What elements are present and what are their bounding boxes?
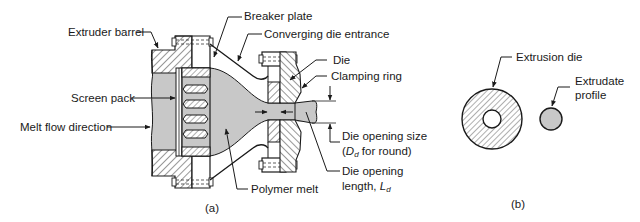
label-extruder-barrel: Extruder barrel [68, 26, 144, 38]
label-die-opening-length-2: length, Ld [342, 180, 391, 194]
label-extrudate-profile: profile [575, 89, 606, 101]
label-clamping-ring: Clamping ring [331, 70, 402, 82]
leader-converging [238, 34, 262, 61]
leader-extrusion-die [493, 57, 512, 87]
label-die-opening-size-note: (Dd for round) [342, 145, 412, 159]
die-top [268, 82, 280, 103]
label-converging-die-entrance: Converging die entrance [264, 28, 389, 40]
label-polymer-melt: Polymer melt [251, 183, 319, 195]
label-die: Die [333, 54, 350, 66]
breaker-plate [182, 68, 210, 156]
leader-clamping-ring [302, 76, 327, 88]
label-die-opening-size: Die opening size [342, 130, 427, 142]
bolt-head-icon [172, 38, 176, 46]
figure-b: Extrusion die Extrudate profile (b) [462, 51, 624, 210]
flange-bottom [192, 156, 210, 188]
clamping-ring-bottom [280, 120, 301, 172]
label-melt-flow-direction: Melt flow direction [20, 121, 112, 133]
label-die-opening-length: Die opening [342, 165, 403, 177]
leader-extrudate [552, 87, 570, 106]
label-extrusion-die: Extrusion die [516, 51, 582, 63]
caption-b: (b) [511, 198, 525, 210]
label-screen-pack: Screen pack [71, 92, 135, 104]
extrudate-stream [295, 101, 317, 123]
leader-breaker-plate [214, 17, 242, 57]
figure-a: Extruder barrel Breaker plate Converging… [20, 10, 427, 214]
label-breaker-plate: Breaker plate [244, 10, 312, 22]
clamping-ring-top [280, 52, 301, 103]
bolt-head-icon [172, 178, 176, 186]
caption-a: (a) [205, 202, 219, 214]
extrusion-die-shape [462, 89, 522, 149]
die-bottom [268, 120, 280, 142]
extrusion-diagram: Extruder barrel Breaker plate Converging… [0, 0, 640, 222]
extrudate-profile-shape [540, 108, 562, 130]
label-extrudate: Extrudate [575, 75, 624, 87]
